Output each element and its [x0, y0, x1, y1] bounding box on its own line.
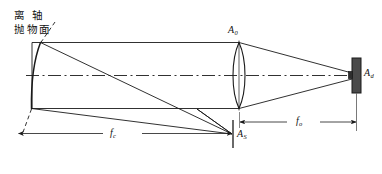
lens-aperture-label: A0 — [228, 25, 237, 35]
figure-canvas — [0, 0, 382, 174]
lens-aperture-label-sub: 0 — [234, 29, 237, 36]
focal-objective-label-sub: o — [299, 120, 302, 127]
focal-objective-label: fo — [296, 116, 302, 126]
detector-label-sub: d — [370, 72, 373, 79]
source-stop-label: AS — [237, 129, 246, 139]
detector-label: Ad — [364, 68, 373, 78]
mirror-to-stop-rays — [32, 43, 233, 135]
source-stop-label-sub: S — [243, 133, 246, 140]
mirror-label-line2: 抛物面 — [14, 24, 52, 35]
mirror-label-line1: 离 轴 — [14, 10, 45, 21]
detector-element — [349, 58, 362, 131]
optical-system-diagram: 离 轴 抛物面 A0 Ad AS fc fo — [0, 0, 382, 174]
focal-collimator-label: fc — [110, 128, 116, 138]
mirror-axis-dashed-leader — [22, 22, 55, 135]
focal-collimator-label-sub: c — [113, 132, 116, 139]
